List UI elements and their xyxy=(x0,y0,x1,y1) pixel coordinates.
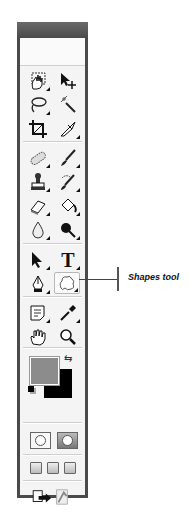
hand-tool-button[interactable] xyxy=(25,326,51,348)
separator xyxy=(23,422,82,424)
slice-knife-icon xyxy=(58,119,78,139)
dodge-icon xyxy=(58,220,78,240)
eraser-icon xyxy=(28,196,48,216)
marquee-tool-button[interactable] xyxy=(25,70,51,92)
magic-wand-tool-button[interactable] xyxy=(55,94,81,116)
standard-mode-button[interactable] xyxy=(30,432,51,449)
path-selection-tool-button[interactable] xyxy=(25,249,51,271)
history-brush-icon xyxy=(58,172,78,192)
history-brush-tool-button[interactable] xyxy=(55,171,81,193)
eyedropper-tool-button[interactable] xyxy=(55,302,81,324)
blur-tool-button[interactable] xyxy=(25,219,51,241)
healing-brush-tool-button[interactable] xyxy=(25,147,51,169)
palette-title-bar[interactable] xyxy=(17,22,88,38)
clone-stamp-tool-button[interactable] xyxy=(25,171,51,193)
move-arrow-icon xyxy=(58,71,78,91)
lasso-tool-button[interactable] xyxy=(25,94,51,116)
separator xyxy=(23,296,82,298)
full-screen-menu-mode-button[interactable] xyxy=(47,462,59,474)
separator xyxy=(23,480,82,482)
magic-wand-icon xyxy=(58,95,78,115)
jump-to-imageready-button[interactable] xyxy=(28,486,78,508)
swap-colors-icon[interactable]: ⇆ xyxy=(64,353,72,364)
separator xyxy=(23,141,82,143)
brush-icon xyxy=(58,148,78,168)
full-screen-mode-button[interactable] xyxy=(64,462,76,474)
pen-tool-button[interactable] xyxy=(25,273,51,295)
crop-tool-button[interactable] xyxy=(25,118,51,140)
quick-mask-icon xyxy=(62,435,73,446)
notes-tool-button[interactable] xyxy=(25,302,51,324)
quick-mask-mode-button[interactable] xyxy=(57,432,78,449)
palette-header xyxy=(20,38,85,66)
arrow-icon xyxy=(28,250,48,270)
drop-icon xyxy=(28,220,48,240)
move-tool-button[interactable] xyxy=(55,70,81,92)
eyedropper-icon xyxy=(58,303,78,323)
default-colors-icon[interactable] xyxy=(28,386,34,392)
separator xyxy=(23,347,82,349)
notes-icon xyxy=(28,303,48,323)
stamp-icon xyxy=(28,172,48,192)
magnifier-icon xyxy=(58,327,78,347)
paint-bucket-tool-button[interactable] xyxy=(55,195,81,217)
lasso-icon xyxy=(28,95,48,115)
standard-mode-icon xyxy=(35,435,46,446)
separator xyxy=(23,454,82,456)
dodge-tool-button[interactable] xyxy=(55,219,81,241)
callout-label: Shapes tool xyxy=(128,272,179,282)
zoom-tool-button[interactable] xyxy=(55,326,81,348)
hand-icon xyxy=(28,327,48,347)
callout-leader-line xyxy=(79,279,117,280)
standard-screen-mode-button[interactable] xyxy=(30,462,42,474)
jump-to-icon xyxy=(31,488,75,506)
type-icon: T xyxy=(61,249,74,272)
shapes-tool-button[interactable] xyxy=(54,272,80,294)
bandage-icon xyxy=(28,148,48,168)
paint-bucket-icon xyxy=(58,196,78,216)
callout-bar xyxy=(117,267,119,291)
separator xyxy=(23,243,82,245)
crop-icon xyxy=(28,119,48,139)
foreground-color-swatch[interactable] xyxy=(30,357,59,385)
hand-marquee-icon xyxy=(28,71,48,91)
eraser-tool-button[interactable] xyxy=(25,195,51,217)
tools-palette: T ⇆ xyxy=(17,22,88,498)
pen-nib-icon xyxy=(28,274,48,294)
type-tool-button[interactable]: T xyxy=(55,249,81,271)
slice-tool-button[interactable] xyxy=(55,118,81,140)
brush-tool-button[interactable] xyxy=(55,147,81,169)
